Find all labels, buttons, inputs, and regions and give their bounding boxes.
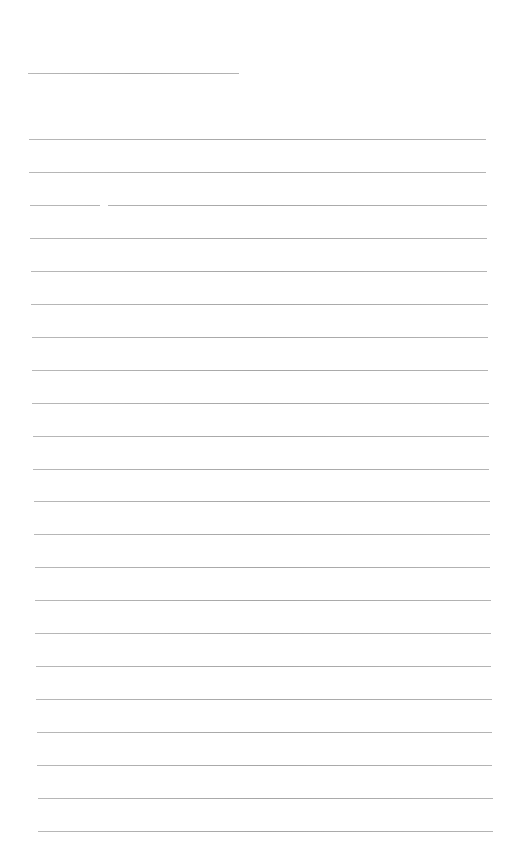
- ruled-line: [38, 798, 493, 799]
- ruled-line: [36, 666, 491, 667]
- ruled-line: [37, 732, 492, 733]
- ruled-line: [32, 370, 488, 371]
- lined-paper-page: [0, 0, 512, 864]
- ruled-line: [35, 567, 491, 568]
- ruled-line: [33, 436, 489, 437]
- ruled-line: [38, 831, 493, 832]
- ruled-line: [29, 172, 486, 173]
- ruled-line: [33, 469, 489, 470]
- ruled-line: [31, 304, 488, 305]
- ruled-line: [31, 271, 488, 272]
- ruled-line: [30, 238, 487, 239]
- line-break-gap: [100, 204, 108, 207]
- ruled-line: [30, 205, 487, 206]
- header-line: [28, 73, 239, 74]
- ruled-line: [34, 501, 490, 502]
- ruled-line: [36, 699, 491, 700]
- ruled-line: [35, 633, 491, 634]
- ruled-line: [32, 337, 488, 338]
- ruled-line: [32, 403, 488, 404]
- ruled-line: [37, 765, 492, 766]
- ruled-line: [35, 600, 491, 601]
- ruled-line: [34, 534, 490, 535]
- ruled-line: [29, 139, 486, 140]
